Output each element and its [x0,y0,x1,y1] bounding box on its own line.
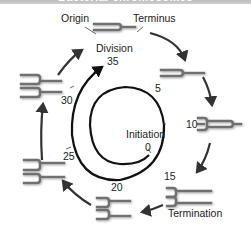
arrow-icon [142,205,163,212]
chromosome-division-icon [94,24,135,30]
arrow-icon [63,181,91,205]
timeline-spiral [72,67,164,180]
initiation-label: Initiation [126,128,165,140]
arrow-icon [197,143,210,172]
tick-15: 15 [164,170,176,182]
chromosome-pair-left-lower-icon [24,160,64,183]
arrow-icon [41,104,43,160]
tick-10: 10 [186,118,198,130]
chromosome-early-replication-icon [161,70,204,76]
arrow-icon [150,33,185,60]
tick-5: 5 [155,82,161,94]
termination-label: Termination [168,207,222,219]
division-label: Division [96,42,133,54]
tick-35: 35 [107,55,119,67]
chromosome-termination-icon [167,188,211,206]
chromosome-pair-left-upper-icon [21,75,61,97]
replication-cycle-diagram: Origin Terminus Division Initiation Term… [0,0,251,234]
tick-30: 30 [61,94,73,106]
tick-20: 20 [111,181,123,193]
chromosome-replicating-icon [198,118,241,130]
arrow-icon [58,50,82,75]
origin-label: Origin [61,12,89,24]
arrow-icon [203,77,212,105]
tick-0: 0 [145,141,151,153]
terminus-label: Terminus [133,12,176,24]
tick-25: 25 [63,150,75,162]
chromosome-pair-bottom-icon [97,198,130,219]
